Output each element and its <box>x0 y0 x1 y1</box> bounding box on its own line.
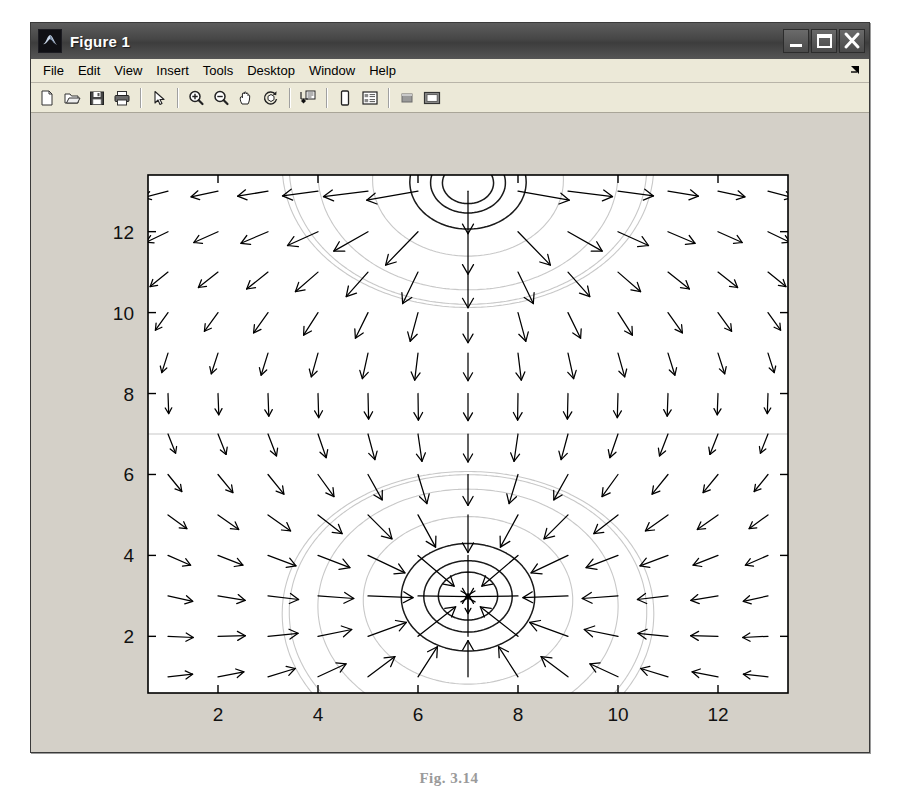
svg-text:6: 6 <box>413 704 424 725</box>
tool-bar <box>31 83 869 113</box>
svg-text:2: 2 <box>123 626 134 647</box>
menu-item-desktop[interactable]: Desktop <box>240 61 302 80</box>
edit-plot-button[interactable] <box>147 86 171 110</box>
zoom-out-button[interactable] <box>209 86 233 110</box>
menu-item-insert[interactable]: Insert <box>149 61 196 80</box>
svg-text:12: 12 <box>707 704 728 725</box>
data-cursor-button[interactable] <box>296 86 320 110</box>
open-file-button[interactable] <box>60 86 84 110</box>
svg-text:6: 6 <box>123 464 134 485</box>
new-figure-button[interactable] <box>35 86 59 110</box>
svg-text:8: 8 <box>513 704 524 725</box>
toolbar-separator <box>177 88 179 108</box>
screenshot-root: Figure 1 File Edit View <box>0 0 898 805</box>
menu-item-tools[interactable]: Tools <box>196 61 240 80</box>
print-figure-button[interactable] <box>110 86 134 110</box>
save-figure-button[interactable] <box>85 86 109 110</box>
toolbar-separator <box>140 88 142 108</box>
menu-item-window[interactable]: Window <box>302 61 362 80</box>
legend-button[interactable] <box>358 86 382 110</box>
figure-window: Figure 1 File Edit View <box>30 22 870 753</box>
svg-text:4: 4 <box>123 545 134 566</box>
svg-text:10: 10 <box>607 704 628 725</box>
svg-text:4: 4 <box>313 704 324 725</box>
pan-button[interactable] <box>234 86 258 110</box>
colorbar-button[interactable] <box>333 86 357 110</box>
menu-overflow-arrow-icon[interactable] <box>848 63 862 77</box>
toolbar-separator <box>388 88 390 108</box>
svg-text:2: 2 <box>213 704 224 725</box>
toolbar-separator <box>289 88 291 108</box>
window-title: Figure 1 <box>70 33 781 50</box>
close-button[interactable] <box>839 29 865 53</box>
hide-plot-tools-button[interactable] <box>395 86 419 110</box>
rotate-3d-button[interactable] <box>259 86 283 110</box>
quiver-contour-plot[interactable]: 2468101224681012 <box>31 113 869 752</box>
menu-item-view[interactable]: View <box>107 61 149 80</box>
toolbar-separator <box>326 88 328 108</box>
maximize-button[interactable] <box>811 29 837 53</box>
menu-item-file[interactable]: File <box>36 61 71 80</box>
show-plot-tools-button[interactable] <box>420 86 444 110</box>
svg-text:8: 8 <box>123 384 134 405</box>
title-bar: Figure 1 <box>31 23 869 59</box>
svg-text:12: 12 <box>113 222 134 243</box>
minimize-button[interactable] <box>783 29 809 53</box>
figure-caption: Fig. 3.14 <box>0 770 898 787</box>
menu-item-help[interactable]: Help <box>362 61 403 80</box>
svg-text:10: 10 <box>113 303 134 324</box>
menu-item-edit[interactable]: Edit <box>71 61 107 80</box>
zoom-in-button[interactable] <box>184 86 208 110</box>
matlab-membrane-icon <box>38 29 62 53</box>
figure-canvas[interactable]: 2468101224681012 <box>31 113 869 752</box>
menu-bar: File Edit View Insert Tools Desktop Wind… <box>31 59 869 83</box>
